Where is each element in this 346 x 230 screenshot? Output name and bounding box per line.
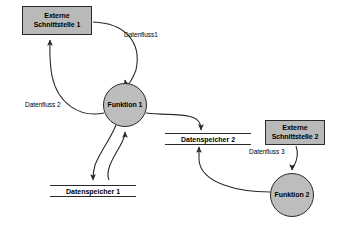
node-label-line-2: Schnittstelle 2 [272, 133, 319, 142]
node-externe-schnittstelle-2[interactable]: Externe Schnittstelle 2 [265, 120, 325, 145]
store-label: Datenspeicher 1 [50, 186, 136, 196]
dataflow-diagram-canvas: Externe Schnittstelle 1 Funktion 1 Exter… [0, 0, 346, 230]
node-label-line-1: Externe [34, 12, 81, 21]
node-label: Funktion 1 [108, 101, 143, 110]
node-funktion-1[interactable]: Funktion 1 [103, 83, 147, 127]
edge-funktion1-to-datenspeicher2 [146, 113, 201, 130]
edge-funktion1-to-datenspeicher1 [93, 125, 116, 180]
flow-label-datenfluss3: Datenfluss 3 [249, 148, 285, 155]
node-externe-schnittstelle-1[interactable]: Externe Schnittstelle 1 [22, 6, 92, 35]
node-label-line-1: Externe [272, 124, 319, 133]
flow-label-datenfluss1: Datenfluss1 [124, 31, 158, 38]
node-label: Funktion 2 [275, 191, 310, 200]
edge-datenspeicher1-to-funktion1 [108, 132, 125, 180]
node-datenspeicher-2[interactable]: Datenspeicher 2 [165, 133, 251, 145]
store-bottom-line [50, 196, 136, 197]
flow-label-datenfluss2: Datenfluss 2 [25, 101, 61, 108]
edge-datenfluss3 [292, 146, 297, 170]
node-datenspeicher-1[interactable]: Datenspeicher 1 [50, 185, 136, 197]
node-funktion-2[interactable]: Funktion 2 [270, 173, 314, 217]
store-label: Datenspeicher 2 [165, 134, 251, 144]
node-label-line-2: Schnittstelle 1 [34, 21, 81, 30]
store-bottom-line [165, 144, 251, 145]
